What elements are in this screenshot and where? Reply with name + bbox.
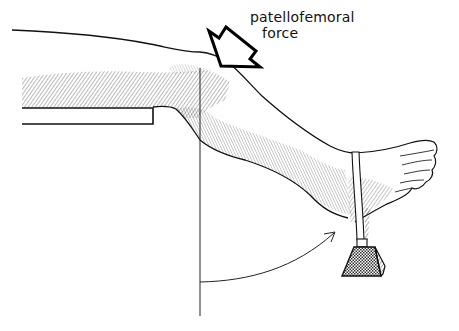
strap-shadow [365,208,370,240]
calf-shading [176,107,352,215]
knee-extension-diagram [0,0,459,331]
thigh-top-outline [12,30,228,62]
weight [342,247,381,276]
force-arrow [209,27,260,67]
annotation-label-line2: force [262,25,298,41]
motion-arc [200,233,334,282]
weight-clip [357,239,367,247]
table-edge [22,108,153,124]
toe-lines [395,150,434,192]
annotation-label-line1: patellofemoral [250,9,355,25]
